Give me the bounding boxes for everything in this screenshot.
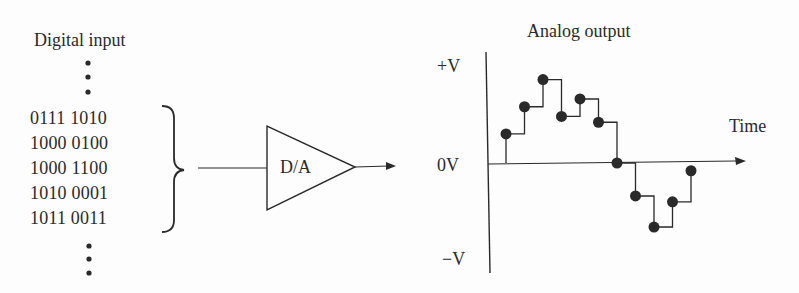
sample-point-icon [519, 101, 530, 112]
ellipsis-top-icon [85, 60, 90, 94]
sample-point-icon [667, 196, 678, 207]
digital-input-title: Digital input [34, 30, 126, 50]
x-axis-label-time: Time [729, 116, 766, 136]
binary-code: 0111 1010 [30, 108, 107, 128]
y-axis [486, 52, 490, 273]
x-axis-arrowhead-icon [735, 157, 746, 165]
sample-point-icon [593, 117, 604, 128]
sample-point-icon [538, 74, 549, 85]
y-label-negative: −V [442, 249, 465, 269]
binary-code: 1010 0001 [30, 183, 108, 203]
sample-point-icon [556, 111, 567, 122]
sample-point-icon [630, 190, 641, 201]
sample-point-icon [612, 158, 623, 169]
output-arrowhead-icon [386, 162, 396, 170]
sample-point-icon [686, 165, 697, 176]
binary-code: 1000 0100 [30, 133, 108, 153]
sample-point-icon [649, 222, 660, 233]
binary-code: 1000 1100 [30, 158, 108, 178]
analog-output-title: Analog output [527, 21, 631, 41]
sample-point-icon [501, 128, 512, 139]
ellipsis-bottom-icon [86, 243, 91, 275]
step-line [506, 80, 691, 227]
staircase-waveform [501, 74, 697, 232]
output-line [355, 166, 389, 167]
da-label: D/A [280, 157, 311, 177]
sample-point-icon [575, 93, 586, 104]
y-label-zero: 0V [437, 155, 459, 175]
y-label-positive: +V [437, 56, 460, 76]
curly-brace-icon [162, 106, 184, 232]
da-converter-diagram: Digital input 0111 10101000 01001000 110… [0, 0, 799, 293]
binary-code: 1011 0011 [30, 208, 107, 228]
